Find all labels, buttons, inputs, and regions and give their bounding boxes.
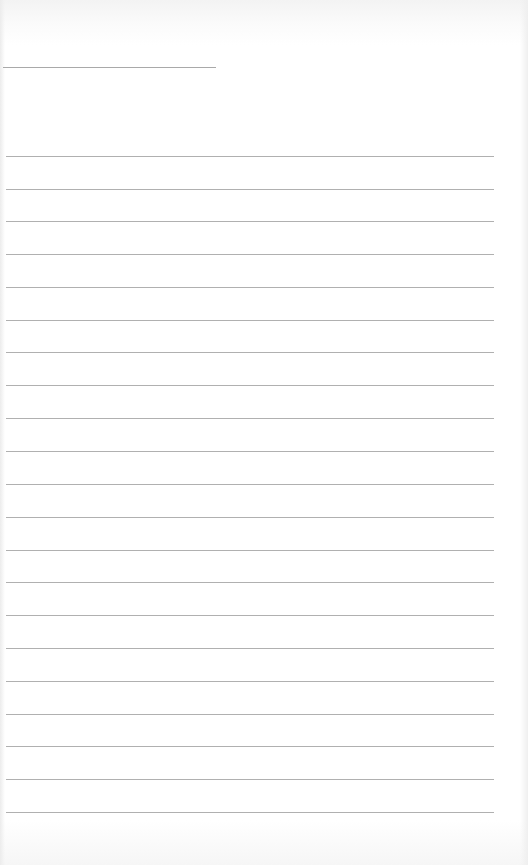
ruled-line [6,517,494,518]
ruled-line [6,385,494,386]
ruled-line [6,484,494,485]
ruled-line [6,189,494,190]
ruled-line [6,451,494,452]
ruled-line [6,582,494,583]
ruled-line [6,550,494,551]
ruled-line [6,746,494,747]
ruled-line [6,254,494,255]
ruled-line [6,352,494,353]
ruled-line [6,287,494,288]
ruled-line [6,221,494,222]
title-underline [3,67,216,68]
ruled-line [6,812,494,813]
page-left-edge-shadow [0,0,5,865]
page-right-edge-shadow [520,0,528,865]
ruled-line [6,681,494,682]
ruled-line [6,779,494,780]
ruled-line [6,156,494,157]
ruled-line [6,714,494,715]
ruled-line [6,418,494,419]
ruled-line [6,615,494,616]
ruled-line [6,648,494,649]
ruled-line [6,320,494,321]
lined-paper-page [0,0,528,865]
